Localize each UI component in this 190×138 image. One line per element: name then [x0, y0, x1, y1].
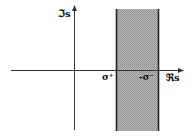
imaginary-axis-arrow-icon: [72, 5, 77, 11]
real-axis-label: ℜs: [166, 72, 180, 83]
imaginary-axis: [72, 5, 77, 130]
strip-right-label: -σ⁻: [139, 72, 154, 82]
complex-plane-diagram: ℑs σ⁺ -σ⁻ ℜs: [0, 0, 190, 138]
strip-left-label: σ⁺: [102, 72, 114, 82]
imaginary-axis-label: ℑs: [57, 8, 71, 19]
